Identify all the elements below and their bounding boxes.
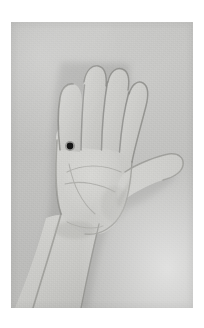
palm-dot-marker — [67, 143, 74, 150]
page-canvas: Black-and-white photograph of a left han… — [0, 0, 204, 328]
photo-alt-text: Black-and-white photograph of a left han… — [0, 0, 1, 1]
thenar-shadow — [101, 186, 129, 222]
photo-caption — [0, 0, 1, 1]
hand-photograph — [11, 22, 193, 308]
hand-illustration — [11, 22, 193, 308]
marker-label — [0, 0, 1, 1]
wrist-shadow — [55, 221, 95, 239]
